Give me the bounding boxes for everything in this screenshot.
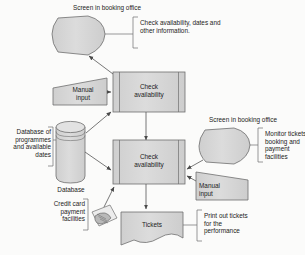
note-check-availability: Check availability, dates and other info… [140,19,260,34]
connector-credit-process [104,187,114,207]
connector-database-process-top [86,112,111,133]
connector-manual-right-process [187,176,196,181]
note-bracket-print [197,210,202,241]
process-top-label: Check availability [120,83,178,98]
connector-right-screen-process [187,160,203,169]
manual-input-right-label: Manual input [199,182,235,197]
note-monitor: Monitor tickets booking and payment faci… [265,130,305,160]
note-print-tickets: Print out tickets for the performance [204,212,294,235]
display-screen-icon-right [199,128,250,164]
connector-process-top-screen [89,56,113,74]
display-screen-icon-top [52,16,105,55]
caption-screen-right: Screen in booking office [193,116,293,124]
connector-database-process-bottom [85,152,111,170]
note-bracket-monitor [258,128,263,162]
caption-screen-top: Screen in booking office [57,4,157,12]
note-credit-card: Credit card payment facilities [34,200,85,223]
process-bottom-label: Check availability [120,153,178,168]
flowchart-canvas: Screen in booking office Check availabil… [0,0,305,255]
hand-with-credit-card-icon [92,205,117,226]
caption-database: Database [45,186,97,194]
tickets-label: Tickets [125,221,179,229]
manual-input-left-label: Manual input [61,86,105,101]
note-database: Database of programmes and available dat… [0,128,51,158]
note-bracket-check [133,17,138,48]
